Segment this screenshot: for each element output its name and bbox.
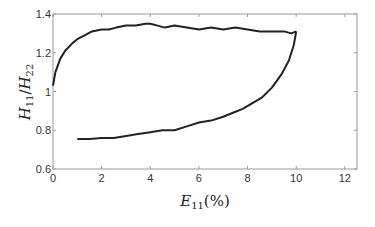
y-tick-label: 0.6 [36,163,51,175]
chart: 0246810120.60.811.21.4 E11(%) H11/H22 [0,0,375,227]
axes-box [53,14,357,169]
series-loading [53,24,296,86]
data-series [53,24,296,139]
y-tick-label: 0.8 [36,124,51,136]
x-axis-label: E11(%) [179,192,230,211]
x-tick-label: 2 [99,172,105,184]
x-tick-label: 4 [147,172,153,184]
x-tick-label: 12 [339,172,351,184]
plot-frame [53,14,357,169]
y-tick-label: 1 [45,86,51,98]
y-tick-label: 1.2 [36,47,51,59]
x-tick-label: 6 [196,172,202,184]
x-tick-label: 10 [290,172,302,184]
series-unloading [77,31,296,139]
y-tick-label: 1.4 [36,8,51,20]
axis-ticks: 0246810120.60.811.21.4 [36,8,357,184]
y-axis-label: H11/H22 [16,64,35,122]
x-tick-label: 8 [244,172,250,184]
